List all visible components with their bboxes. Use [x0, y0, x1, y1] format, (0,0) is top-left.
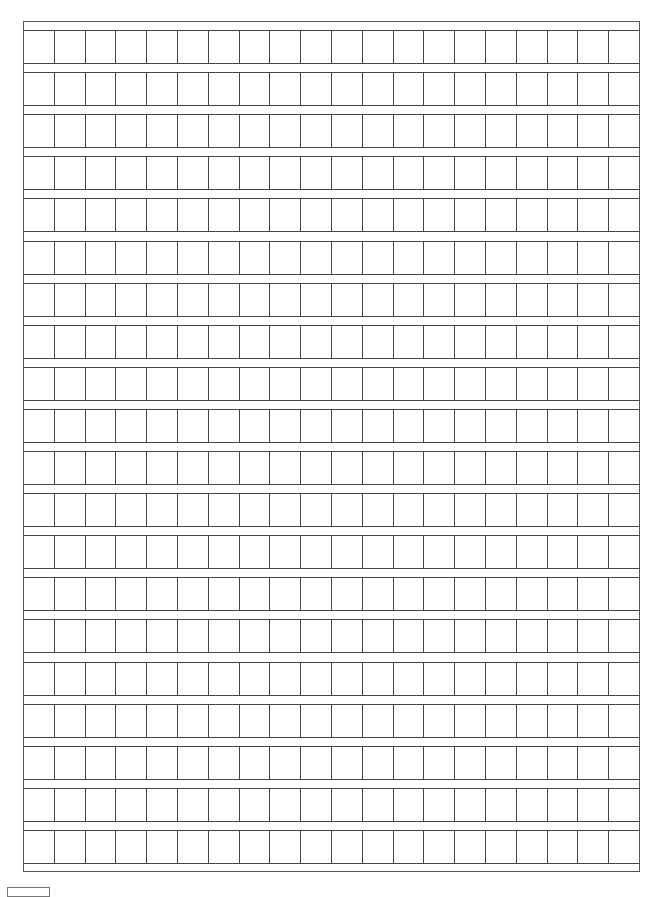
grid-cell — [147, 452, 178, 484]
grid-cell — [147, 326, 178, 358]
grid-row — [24, 114, 639, 148]
grid-cell — [270, 536, 301, 568]
grid-cell — [517, 115, 548, 147]
grid-cell — [178, 789, 209, 821]
grid-cell — [548, 73, 579, 105]
grid-cell — [363, 536, 394, 568]
grid-cell — [548, 578, 579, 610]
grid-cell — [209, 620, 240, 652]
grid-cell — [332, 452, 363, 484]
grid-cell — [240, 326, 271, 358]
grid-cell — [548, 31, 579, 63]
grid-row — [24, 409, 639, 443]
grid-cell — [301, 536, 332, 568]
grid-cell — [24, 115, 55, 147]
grid-cell — [301, 705, 332, 737]
grid-cell — [363, 831, 394, 863]
grid-cell — [301, 157, 332, 189]
grid-cell — [24, 578, 55, 610]
grid-cell — [424, 31, 455, 63]
grid-cell — [116, 789, 147, 821]
grid-cell — [24, 705, 55, 737]
grid-cell — [24, 789, 55, 821]
grid-cell — [240, 410, 271, 442]
grid-cell — [270, 31, 301, 63]
grid-cell — [240, 705, 271, 737]
grid-cell — [486, 31, 517, 63]
grid-cell — [578, 831, 609, 863]
grid-cell — [548, 705, 579, 737]
grid-cell — [86, 578, 117, 610]
grid-cell — [548, 747, 579, 779]
grid-cell — [486, 578, 517, 610]
grid-cell — [578, 789, 609, 821]
grid-cell — [24, 31, 55, 63]
grid-cell — [240, 115, 271, 147]
grid-cell — [394, 73, 425, 105]
grid-cell — [517, 199, 548, 231]
grid-cell — [270, 663, 301, 695]
grid-cell — [86, 663, 117, 695]
grid-cell — [86, 410, 117, 442]
grid-cell — [301, 73, 332, 105]
grid-cell — [517, 242, 548, 274]
grid-row — [24, 325, 639, 359]
grid-cell — [55, 620, 86, 652]
grid-cell — [548, 452, 579, 484]
grid-cell — [24, 831, 55, 863]
grid-cell — [609, 663, 639, 695]
grid-cell — [363, 31, 394, 63]
grid-cell — [147, 199, 178, 231]
manuscript-sheet — [23, 21, 640, 872]
grid-cell — [424, 789, 455, 821]
grid-cell — [609, 157, 639, 189]
grid-row — [24, 704, 639, 738]
grid-cell — [209, 157, 240, 189]
grid-cell — [455, 326, 486, 358]
grid-cell — [301, 199, 332, 231]
grid-cell — [455, 157, 486, 189]
grid-cell — [209, 326, 240, 358]
grid-cell — [609, 536, 639, 568]
grid-cell — [486, 115, 517, 147]
grid-cell — [270, 284, 301, 316]
grid-cell — [578, 452, 609, 484]
grid-cell — [24, 536, 55, 568]
grid-cell — [424, 494, 455, 526]
grid-cell — [455, 789, 486, 821]
grid-cell — [270, 620, 301, 652]
grid-cell — [455, 242, 486, 274]
grid-cell — [270, 747, 301, 779]
grid-cell — [486, 620, 517, 652]
grid-cell — [178, 494, 209, 526]
grid-cell — [240, 368, 271, 400]
grid-cell — [55, 115, 86, 147]
grid-cell — [548, 284, 579, 316]
grid-cell — [394, 620, 425, 652]
grid-cell — [301, 831, 332, 863]
grid-cell — [424, 73, 455, 105]
grid-cell — [240, 663, 271, 695]
grid-cell — [363, 326, 394, 358]
grid-cell — [548, 157, 579, 189]
grid-cell — [301, 284, 332, 316]
grid-row — [24, 451, 639, 485]
grid-cell — [147, 705, 178, 737]
grid-cell — [363, 705, 394, 737]
grid-cell — [178, 831, 209, 863]
grid-cell — [578, 705, 609, 737]
grid-cell — [240, 452, 271, 484]
grid-row — [24, 577, 639, 611]
grid-cell — [394, 452, 425, 484]
grid-cell — [517, 620, 548, 652]
grid-cell — [486, 536, 517, 568]
grid-cell — [301, 789, 332, 821]
grid-cell — [301, 452, 332, 484]
grid-cell — [116, 705, 147, 737]
grid-cell — [363, 663, 394, 695]
grid-cell — [209, 789, 240, 821]
grid-cell — [147, 578, 178, 610]
grid-cell — [147, 31, 178, 63]
grid-row — [24, 746, 639, 780]
grid-cell — [301, 368, 332, 400]
